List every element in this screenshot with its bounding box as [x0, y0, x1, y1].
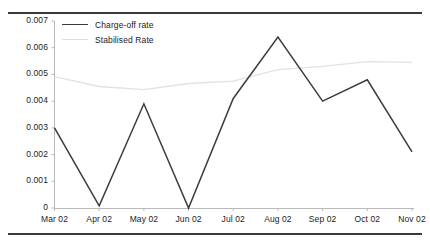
legend-line-swatch-icon — [62, 24, 88, 25]
legend-line-swatch-icon — [62, 39, 88, 40]
x-axis-tick-label: May 02 — [121, 214, 167, 224]
chart-figure: 0.0070.0060.0050.0040.0030.0020.0010 Mar… — [0, 0, 430, 247]
x-axis-tick-label: Nov 02 — [389, 214, 430, 224]
legend-item-stabilised-rate: Stabilised Rate — [62, 32, 202, 47]
x-axis-tick-label: Mar 02 — [32, 214, 78, 224]
y-axis-tick-label: 0.005 — [4, 69, 48, 78]
x-axis-tick-label: Aug 02 — [255, 214, 301, 224]
y-axis-tick-label: 0 — [4, 203, 48, 212]
x-axis-tick-label: Sep 02 — [300, 214, 346, 224]
legend-item-charge-off-rate: Charge-off rate — [62, 17, 202, 32]
y-axis-tick-label: 0.004 — [4, 96, 48, 105]
x-axis-tick-label: Oct 02 — [344, 214, 390, 224]
y-axis-tick-label: 0.007 — [4, 16, 48, 25]
axis-lines — [55, 21, 415, 209]
legend-label: Charge-off rate — [95, 20, 154, 30]
y-axis-tick-label: 0.002 — [4, 150, 48, 159]
y-axis-tick-label: 0.003 — [4, 123, 48, 132]
x-axis-tick-label: Apr 02 — [76, 214, 122, 224]
x-axis-tick-label: Jun 02 — [166, 214, 212, 224]
chart-legend: Charge-off rate Stabilised Rate — [62, 17, 202, 47]
x-axis-tick-label: Jul 02 — [210, 214, 256, 224]
y-axis-tick-label: 0.006 — [4, 43, 48, 52]
y-axis-tick-label: 0.001 — [4, 176, 48, 185]
legend-label: Stabilised Rate — [95, 35, 154, 45]
series-line-stabilised-rate — [55, 62, 413, 90]
